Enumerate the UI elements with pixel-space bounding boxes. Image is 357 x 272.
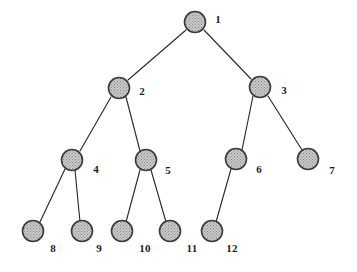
- node-label-11: 11: [187, 243, 198, 254]
- node-circle-6: [226, 149, 247, 170]
- tree-node-1[interactable]: [185, 12, 206, 33]
- tree-diagram: 123456789101112: [0, 0, 357, 272]
- node-label-12: 12: [226, 243, 237, 254]
- tree-node-4[interactable]: [62, 150, 83, 171]
- node-layer: [23, 12, 319, 242]
- edge-layer: [40, 30, 302, 222]
- node-label-8: 8: [50, 243, 56, 254]
- node-circle-2: [109, 78, 130, 99]
- tree-edge-4-9: [75, 170, 80, 222]
- tree-edge-3-6: [242, 96, 253, 150]
- tree-edge-6-12: [216, 169, 231, 222]
- node-label-1: 1: [215, 14, 221, 25]
- tree-edge-1-2: [128, 30, 186, 80]
- tree-node-5[interactable]: [136, 150, 157, 171]
- tree-node-2[interactable]: [109, 78, 130, 99]
- node-label-10: 10: [139, 243, 150, 254]
- tree-edge-5-10: [126, 170, 140, 222]
- tree-node-12[interactable]: [202, 221, 223, 242]
- tree-edge-2-4: [80, 97, 111, 151]
- tree-node-7[interactable]: [298, 149, 319, 170]
- node-label-2: 2: [139, 86, 145, 97]
- node-circle-9: [72, 221, 93, 242]
- node-label-4: 4: [93, 164, 99, 175]
- tree-edge-5-11: [151, 170, 166, 222]
- node-label-9: 9: [96, 243, 102, 254]
- node-label-5: 5: [165, 165, 171, 176]
- node-circle-10: [112, 221, 133, 242]
- tree-edge-1-3: [204, 30, 251, 79]
- tree-node-6[interactable]: [226, 149, 247, 170]
- node-circle-12: [202, 221, 223, 242]
- node-circle-8: [23, 221, 44, 242]
- tree-edge-4-8: [40, 169, 65, 222]
- node-circle-4: [62, 150, 83, 171]
- node-circle-1: [185, 12, 206, 33]
- node-circle-11: [160, 221, 181, 242]
- node-label-7: 7: [329, 165, 335, 176]
- tree-node-9[interactable]: [72, 221, 93, 242]
- tree-node-8[interactable]: [23, 221, 44, 242]
- tree-graphics: [0, 0, 357, 272]
- tree-edge-2-5: [126, 97, 140, 151]
- node-circle-7: [298, 149, 319, 170]
- tree-node-3[interactable]: [250, 77, 271, 98]
- node-circle-3: [250, 77, 271, 98]
- tree-edge-3-7: [268, 96, 302, 150]
- node-label-3: 3: [281, 85, 287, 96]
- tree-node-10[interactable]: [112, 221, 133, 242]
- node-label-6: 6: [256, 164, 262, 175]
- tree-node-11[interactable]: [160, 221, 181, 242]
- node-circle-5: [136, 150, 157, 171]
